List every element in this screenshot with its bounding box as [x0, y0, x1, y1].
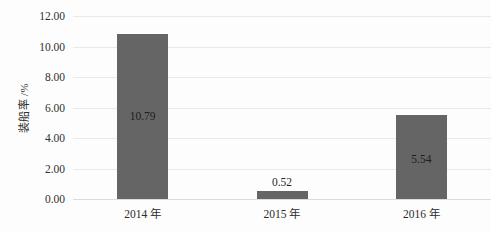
y-axis-tick-label: 2.00 — [5, 163, 65, 175]
y-axis-tick-label: 6.00 — [5, 102, 65, 114]
y-axis-tick-label: 12.00 — [5, 10, 65, 22]
bar-data-label: 5.54 — [396, 153, 447, 165]
y-axis-tick-label: 8.00 — [5, 71, 65, 83]
bar-data-label: 10.79 — [117, 110, 168, 122]
x-axis-tick-label: 2014 年 — [78, 205, 208, 221]
chart-screenshot: 装船率 /% 0.002.004.006.008.0010.0012.00 10… — [0, 0, 491, 233]
bar — [257, 191, 308, 199]
x-axis-tick-label: 2015 年 — [217, 205, 347, 221]
y-axis-tick-label: 0.00 — [5, 193, 65, 205]
plot-area: 10.790.525.54 — [73, 16, 491, 199]
y-axis-tick-label: 4.00 — [5, 132, 65, 144]
gridline — [73, 199, 491, 200]
x-axis-tick-label: 2016 年 — [356, 205, 486, 221]
gridline — [73, 16, 491, 17]
bar-data-label: 0.52 — [257, 176, 308, 188]
y-axis-tick-label: 10.00 — [5, 41, 65, 53]
